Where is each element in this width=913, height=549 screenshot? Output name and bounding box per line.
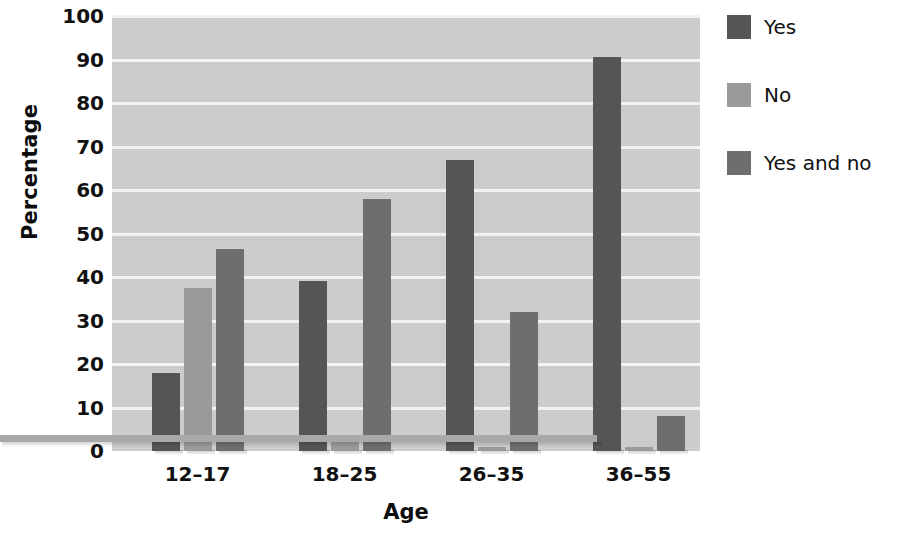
y-axis-tick-label: 80 — [36, 91, 104, 115]
bar[interactable] — [593, 57, 621, 451]
x-axis-tick-label: 36–55 — [559, 462, 719, 486]
y-axis-tick-label: 50 — [36, 222, 104, 246]
plot-area — [112, 16, 700, 451]
y-axis-tick-label: 30 — [36, 309, 104, 333]
bar[interactable] — [446, 160, 474, 451]
x-axis-title: Age — [112, 500, 700, 524]
legend-swatch — [727, 15, 751, 39]
legend-swatch — [727, 151, 751, 175]
y-axis-tick-labels: 0102030405060708090100 — [36, 16, 104, 451]
legend-label: Yes — [764, 15, 796, 39]
legend-label: No — [764, 83, 791, 107]
legend-item[interactable]: No — [727, 82, 791, 108]
y-axis-tick-label: 40 — [36, 265, 104, 289]
y-axis-tick-label: 90 — [36, 48, 104, 72]
x-axis-baseline — [0, 435, 597, 442]
bar-chart: Percentage 0102030405060708090100 12–171… — [0, 0, 913, 549]
bar[interactable] — [510, 312, 538, 451]
bar[interactable] — [299, 281, 327, 451]
x-axis-tick-label: 12–17 — [118, 462, 278, 486]
y-axis-tick-label: 70 — [36, 135, 104, 159]
x-axis-tick-label: 26–35 — [412, 462, 572, 486]
bar[interactable] — [184, 288, 212, 451]
legend-swatch — [727, 83, 751, 107]
y-axis-tick-label: 10 — [36, 396, 104, 420]
y-axis-tick-label: 60 — [36, 178, 104, 202]
y-axis-tick-label: 20 — [36, 352, 104, 376]
x-axis-tick-label: 18–25 — [265, 462, 425, 486]
y-axis-tick-label: 100 — [36, 4, 104, 28]
legend-item[interactable]: Yes — [727, 14, 796, 40]
gridline — [112, 15, 700, 18]
bar[interactable] — [657, 416, 685, 451]
bar[interactable] — [478, 447, 506, 451]
legend-label: Yes and no — [764, 151, 872, 175]
x-axis-tick-labels: 12–1718–2526–3536–55 — [112, 462, 700, 492]
bar[interactable] — [363, 199, 391, 451]
axis-baseline-shadow — [2, 442, 602, 447]
legend-item[interactable]: Yes and no — [727, 150, 872, 176]
bar[interactable] — [625, 447, 653, 451]
bar[interactable] — [216, 249, 244, 451]
